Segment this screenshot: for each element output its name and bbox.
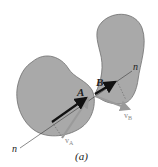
label-va: vA <box>65 136 74 146</box>
label-n-start: n <box>12 143 17 154</box>
impact-diagram: A B n n vA vB (a) <box>0 0 158 167</box>
diagram-canvas: A B n n vA vB (a) <box>0 0 158 167</box>
figure-caption: (a) <box>75 150 88 163</box>
label-n-end: n <box>133 61 138 72</box>
label-b: B <box>95 76 103 88</box>
label-a: A <box>76 86 84 98</box>
label-vb: vB <box>124 111 132 121</box>
